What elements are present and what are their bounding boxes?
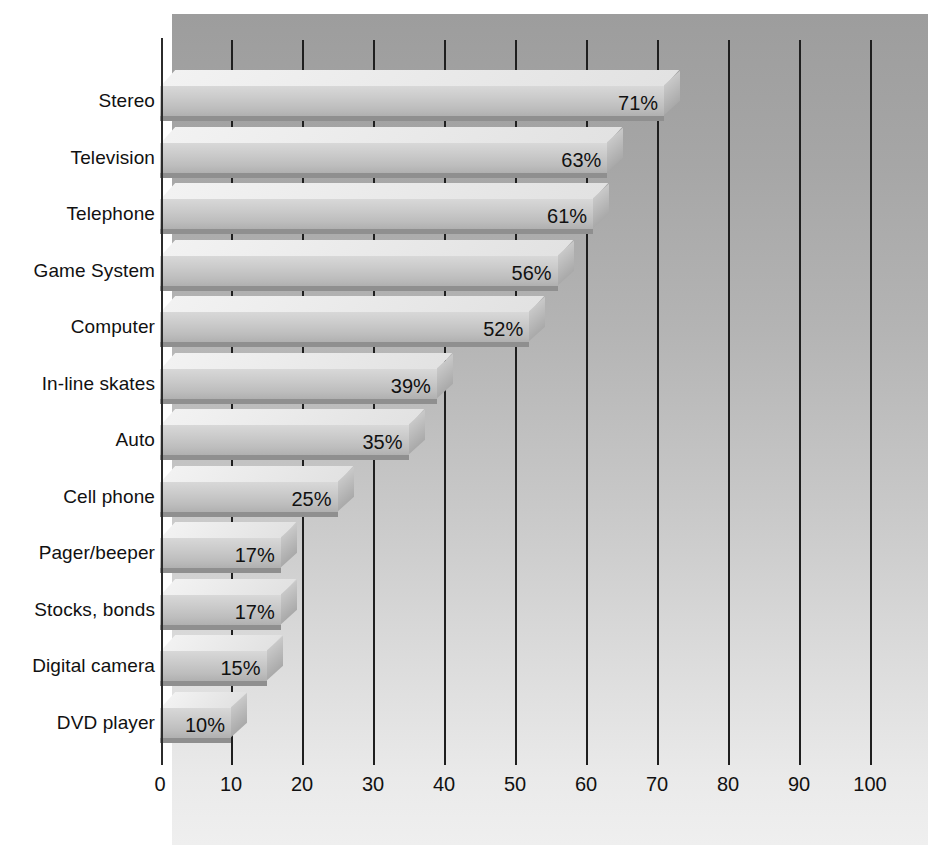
category-label: Digital camera	[32, 655, 155, 677]
bar-top-face	[161, 409, 424, 425]
bar-shadow	[160, 116, 664, 121]
category-label: Auto	[116, 429, 156, 451]
bar-top-face	[161, 70, 680, 86]
category-label: Television	[71, 147, 155, 169]
category-label: In-line skates	[42, 373, 155, 395]
bar-value-label: 52%	[467, 318, 523, 341]
gridline-100	[870, 40, 872, 765]
category-label: Stereo	[98, 90, 155, 112]
bar-value-label: 15%	[205, 657, 261, 680]
bar-shadow	[160, 568, 281, 573]
x-tick-label-70: 70	[646, 773, 668, 796]
bar-front-face	[160, 86, 664, 116]
bar-chart: 71%63%61%56%52%39%35%25%17%17%15%10% Ste…	[0, 0, 938, 858]
bar-top-face	[161, 127, 623, 143]
bar-shadow	[160, 342, 529, 347]
bar-shadow	[160, 399, 437, 404]
bar-shadow	[160, 738, 231, 743]
category-label: Pager/beeper	[39, 542, 155, 564]
bar-front-face	[160, 199, 593, 229]
bar-shadow	[160, 286, 558, 291]
x-tick-label-60: 60	[575, 773, 597, 796]
bar-top-face	[161, 579, 296, 595]
x-tick-label-40: 40	[433, 773, 455, 796]
gridline-90	[799, 40, 801, 765]
bar-value-label: 35%	[347, 431, 403, 454]
bar-top-face	[161, 635, 282, 651]
category-label: Cell phone	[63, 486, 155, 508]
bar-shadow	[160, 173, 607, 178]
x-tick-label-100: 100	[853, 773, 886, 796]
bar-value-label: 39%	[375, 374, 431, 397]
category-label: Telephone	[66, 203, 155, 225]
x-tick-label-80: 80	[717, 773, 739, 796]
bar-shadow	[160, 455, 409, 460]
bar-value-label: 61%	[531, 205, 587, 228]
category-label: DVD player	[57, 712, 155, 734]
bar-shadow	[160, 625, 281, 630]
bar-value-label: 25%	[276, 487, 332, 510]
x-tick-label-50: 50	[504, 773, 526, 796]
bar-top-face	[161, 522, 296, 538]
x-tick-label-20: 20	[291, 773, 313, 796]
gridline-70	[657, 40, 659, 765]
bar-top-face	[161, 240, 573, 256]
x-tick-label-90: 90	[788, 773, 810, 796]
bar-top-face	[161, 183, 609, 199]
bar-shadow	[160, 512, 338, 517]
y-axis-line	[161, 38, 163, 765]
category-label: Game System	[34, 260, 155, 282]
bar-value-label: 56%	[496, 261, 552, 284]
category-label: Computer	[71, 316, 155, 338]
bar-value-label: 17%	[219, 544, 275, 567]
bar-top-face	[161, 353, 452, 369]
bar-top-face	[161, 466, 353, 482]
x-tick-label-0: 0	[154, 773, 165, 796]
bar-front-face	[160, 143, 607, 173]
bar-top-face	[161, 296, 545, 312]
bar-value-label: 71%	[602, 92, 658, 115]
bar-shadow	[160, 681, 267, 686]
bar-shadow	[160, 229, 593, 234]
category-label: Stocks, bonds	[34, 599, 155, 621]
bar-value-label: 10%	[169, 713, 225, 736]
x-tick-label-30: 30	[362, 773, 384, 796]
bar-value-label: 63%	[545, 148, 601, 171]
bar-value-label: 17%	[219, 600, 275, 623]
gridline-80	[728, 40, 730, 765]
x-tick-label-10: 10	[220, 773, 242, 796]
